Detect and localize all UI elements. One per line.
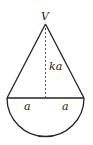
cone-diagram: V ka a a <box>0 0 93 145</box>
height-label: ka <box>49 60 62 73</box>
apex-label: V <box>41 10 50 23</box>
left-radius-label: a <box>24 100 31 113</box>
right-radius-label: a <box>62 100 69 113</box>
diagram-canvas: V ka a a <box>0 0 93 145</box>
cone-left-edge <box>7 24 46 98</box>
semicircle-base <box>7 98 84 137</box>
